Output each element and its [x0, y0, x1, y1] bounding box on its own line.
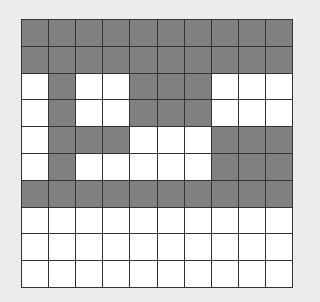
grid-cell-r1-c9	[266, 47, 292, 73]
grid-cell-r7-c0	[22, 208, 48, 234]
grid-cell-r5-c4	[130, 154, 156, 180]
grid-cell-r6-c8	[239, 181, 265, 207]
grid-cell-r5-c7	[212, 154, 238, 180]
grid-cell-r8-c6	[185, 234, 211, 260]
grid-cell-r5-c9	[266, 154, 292, 180]
grid-cell-r1-c7	[212, 47, 238, 73]
grid-cell-r1-c0	[22, 47, 48, 73]
grid-cell-r3-c7	[212, 100, 238, 126]
grid-cell-r6-c2	[76, 181, 102, 207]
grid-cell-r1-c6	[185, 47, 211, 73]
grid-cell-r2-c2	[76, 74, 102, 100]
grid-cell-r6-c0	[22, 181, 48, 207]
grid-cell-r6-c5	[158, 181, 184, 207]
grid-cell-r0-c4	[130, 20, 156, 46]
grid-cell-r7-c4	[130, 208, 156, 234]
grid-cell-r7-c7	[212, 208, 238, 234]
grid-cell-r0-c2	[76, 20, 102, 46]
grid-cell-r8-c2	[76, 234, 102, 260]
grid-cell-r4-c0	[22, 127, 48, 153]
grid-cell-r6-c3	[103, 181, 129, 207]
grid-cell-r3-c3	[103, 100, 129, 126]
grid-cell-r4-c5	[158, 127, 184, 153]
grid-cell-r8-c8	[239, 234, 265, 260]
grid-cell-r5-c6	[185, 154, 211, 180]
grid-cell-r9-c5	[158, 261, 184, 287]
grid-cell-r3-c1	[49, 100, 75, 126]
grid-cell-r8-c1	[49, 234, 75, 260]
grid-cell-r0-c0	[22, 20, 48, 46]
grid-cell-r9-c1	[49, 261, 75, 287]
grid-cell-r2-c7	[212, 74, 238, 100]
grid-cell-r8-c5	[158, 234, 184, 260]
grid-cell-r1-c3	[103, 47, 129, 73]
grid-cell-r3-c6	[185, 100, 211, 126]
grid-cell-r3-c5	[158, 100, 184, 126]
grid-cell-r3-c9	[266, 100, 292, 126]
grid-cell-r5-c5	[158, 154, 184, 180]
grid-cell-r4-c7	[212, 127, 238, 153]
grid-cell-r2-c8	[239, 74, 265, 100]
grid-cell-r1-c5	[158, 47, 184, 73]
grid-cell-r9-c3	[103, 261, 129, 287]
grid-cell-r8-c7	[212, 234, 238, 260]
grid-cell-r8-c4	[130, 234, 156, 260]
grid-cell-r7-c8	[239, 208, 265, 234]
grid-cell-r2-c5	[158, 74, 184, 100]
grid-cell-r5-c1	[49, 154, 75, 180]
grid-cell-r9-c6	[185, 261, 211, 287]
grid-cell-r4-c6	[185, 127, 211, 153]
grid-cell-r1-c8	[239, 47, 265, 73]
grid-cell-r2-c0	[22, 74, 48, 100]
grid-cell-r0-c5	[158, 20, 184, 46]
grid-cell-r9-c4	[130, 261, 156, 287]
grid-cell-r4-c4	[130, 127, 156, 153]
grid-cell-r7-c1	[49, 208, 75, 234]
grid-cell-r0-c6	[185, 20, 211, 46]
grid-cell-r4-c1	[49, 127, 75, 153]
grid-cell-r4-c3	[103, 127, 129, 153]
grid-cell-r0-c3	[103, 20, 129, 46]
grid-cell-r9-c7	[212, 261, 238, 287]
grid-cell-r7-c2	[76, 208, 102, 234]
grid-cell-r9-c9	[266, 261, 292, 287]
grid-cell-r1-c1	[49, 47, 75, 73]
grid-cell-r9-c2	[76, 261, 102, 287]
grid-cell-r6-c7	[212, 181, 238, 207]
grid-cell-r4-c2	[76, 127, 102, 153]
grid-cell-r7-c5	[158, 208, 184, 234]
grid-cell-r5-c8	[239, 154, 265, 180]
grid-cell-r3-c8	[239, 100, 265, 126]
grid-cell-r7-c6	[185, 208, 211, 234]
grid-cell-r3-c2	[76, 100, 102, 126]
grid-cell-r2-c1	[49, 74, 75, 100]
grid-cell-r6-c4	[130, 181, 156, 207]
grid-cell-r0-c8	[239, 20, 265, 46]
grid-cell-r6-c1	[49, 181, 75, 207]
grid-cell-r6-c6	[185, 181, 211, 207]
grid-cell-r4-c8	[239, 127, 265, 153]
grid-cell-r5-c3	[103, 154, 129, 180]
grid-cell-r3-c4	[130, 100, 156, 126]
grid-cell-r2-c3	[103, 74, 129, 100]
grid-cell-r2-c4	[130, 74, 156, 100]
grid-cell-r0-c7	[212, 20, 238, 46]
grid-cell-r1-c2	[76, 47, 102, 73]
grid-cell-r5-c2	[76, 154, 102, 180]
grid-cell-r0-c9	[266, 20, 292, 46]
grid-cell-r9-c8	[239, 261, 265, 287]
grid-cell-r7-c9	[266, 208, 292, 234]
grid-cell-r7-c3	[103, 208, 129, 234]
grid-cell-r0-c1	[49, 20, 75, 46]
grid-cell-r5-c0	[22, 154, 48, 180]
grid-cell-r8-c0	[22, 234, 48, 260]
grid-cell-r6-c9	[266, 181, 292, 207]
grid-cell-r3-c0	[22, 100, 48, 126]
grid-cell-r2-c6	[185, 74, 211, 100]
grid-cell-r8-c3	[103, 234, 129, 260]
grid-cell-r9-c0	[22, 261, 48, 287]
grid-cell-r2-c9	[266, 74, 292, 100]
grid-cell-r1-c4	[130, 47, 156, 73]
grid-cell-r8-c9	[266, 234, 292, 260]
grid-cell-r4-c9	[266, 127, 292, 153]
